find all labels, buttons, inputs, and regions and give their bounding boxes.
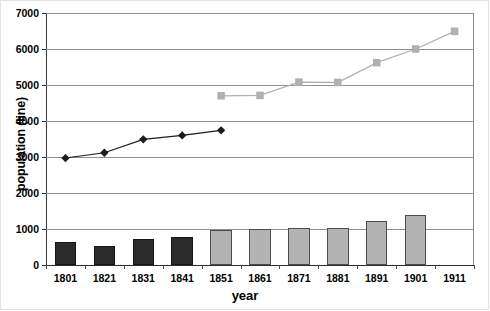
gridline-5000 [46,85,474,86]
x-tick-mark [396,265,397,269]
gridline-0 [46,265,474,266]
x-tick-mark [163,265,164,269]
y-tick-label: 4000 [0,115,39,127]
x-tick-mark [241,265,242,269]
bar-1881 [327,228,348,265]
gridline-6000 [46,49,474,50]
y-tick-label: 6000 [0,43,39,55]
y-tick-mark-7000 [42,13,46,14]
plot-area [46,13,474,265]
bar-1801 [55,242,76,265]
y-tick-label: 3000 [0,151,39,163]
gridline-3000 [46,157,474,158]
bar-1821 [94,246,115,265]
data-point-marker [217,126,225,134]
data-point-marker [373,59,381,67]
bar-1901 [405,215,426,265]
line-path [65,130,221,158]
data-point-marker [256,92,264,100]
x-tick-mark [357,265,358,269]
y-tick-label: 7000 [0,7,39,19]
bar-1871 [288,228,309,265]
line-path [221,31,454,95]
x-tick-mark [435,265,436,269]
gridline-4000 [46,121,474,122]
y-tick-label: 0 [0,259,39,271]
bar-1831 [133,239,154,265]
x-axis-title: year [45,288,445,303]
x-tick-mark [202,265,203,269]
y-tick-mark-0 [42,265,46,266]
gridline-7000 [46,13,474,14]
y-tick-mark-2000 [42,193,46,194]
x-tick-mark [124,265,125,269]
y-tick-mark-6000 [42,49,46,50]
y-tick-mark-1000 [42,229,46,230]
y-tick-label: 2000 [0,187,39,199]
bar-1851 [210,230,231,265]
population-chart-figure: population (line) year 01000200030004000… [0,0,490,311]
data-point-marker [139,135,147,143]
x-tick-mark [318,265,319,269]
x-tick-mark [85,265,86,269]
x-tick-mark [474,265,475,269]
bar-1841 [171,237,192,265]
y-tick-mark-4000 [42,121,46,122]
data-point-marker [451,28,459,36]
data-point-marker [178,131,186,139]
data-point-marker [100,148,108,156]
y-tick-label: 1000 [0,223,39,235]
x-tick-mark [46,265,47,269]
x-tick-label-1911: 1911 [428,272,482,284]
data-point-marker [217,92,225,100]
data-point-marker [61,154,69,162]
bar-1861 [249,229,270,265]
bar-1891 [366,221,387,265]
y-tick-mark-3000 [42,157,46,158]
y-tick-label: 5000 [0,79,39,91]
y-tick-mark-5000 [42,85,46,86]
x-tick-mark [279,265,280,269]
gridline-2000 [46,193,474,194]
